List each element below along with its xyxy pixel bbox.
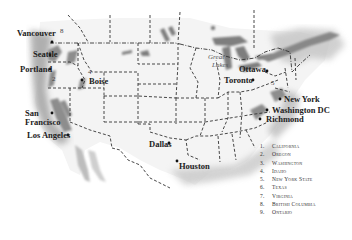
legend-number: 6.: [260, 183, 272, 191]
city-label-los-angeles: Los Angeles: [27, 131, 70, 140]
legend-number: 3.: [260, 159, 272, 167]
city-label-ottawa: Ottawa: [239, 65, 266, 74]
legend-label: Washington: [272, 159, 302, 167]
legend-number: 1.: [260, 142, 272, 150]
legend-label: California: [272, 142, 299, 150]
legend-label: British Columbia: [272, 200, 315, 208]
legend-item: 7.Virginia: [260, 192, 315, 200]
legend-number: 8.: [260, 200, 272, 208]
city-dot-san-francisco: [51, 112, 54, 115]
legend-item: 6.Texas: [260, 183, 315, 191]
city-dot-richmond: [259, 118, 262, 121]
legend-item: 8.British Columbia: [260, 200, 315, 208]
region-marker-4: 4: [88, 68, 92, 76]
legend-label: Idaho: [272, 167, 286, 175]
city-label-dallas: Dallas: [149, 140, 172, 149]
city-label-houston: Houston: [179, 162, 210, 171]
legend-item: 4.Idaho: [260, 167, 315, 175]
legend-item: 1.California: [260, 142, 315, 150]
legend-number: 9.: [260, 208, 272, 216]
legend-label: New York State: [272, 175, 312, 183]
legend-item: 2.Oregon: [260, 150, 315, 158]
legend-item: 5.New York State: [260, 175, 315, 183]
city-dot-houston: [176, 160, 179, 163]
city-label-seattle: Seattle: [33, 50, 58, 59]
legend-item: 9.Ontario: [260, 208, 315, 216]
legend: 1.California 2.Oregon 3.Washington 4.Ida…: [260, 142, 315, 217]
region-marker-8: 8: [60, 27, 64, 35]
legend-label: Oregon: [272, 150, 291, 158]
city-dot-washington-dc: [266, 109, 269, 112]
legend-number: 4.: [260, 167, 272, 175]
city-dot-boise: [81, 79, 84, 82]
city-dot-vancouver: [51, 41, 54, 44]
legend-number: 2.: [260, 150, 272, 158]
legend-label: Ontario: [272, 208, 292, 216]
city-label-new-york: New York: [284, 95, 320, 104]
city-label-portland: Portland: [20, 65, 52, 74]
legend-number: 5.: [260, 175, 272, 183]
legend-item: 3.Washington: [260, 159, 315, 167]
legend-label: Virginia: [272, 192, 293, 200]
region-marker-5: 5: [271, 79, 275, 87]
city-label-boise: Boise: [89, 77, 108, 86]
legend-label: Texas: [272, 183, 287, 191]
city-dot-ottawa: [266, 70, 269, 73]
city-label-richmond: Richmond: [266, 115, 304, 124]
legend-number: 7.: [260, 192, 272, 200]
region-marker-2: 2: [52, 75, 56, 83]
city-label-toronto: Toronto: [224, 76, 253, 85]
city-label-francisco: Francisco: [25, 118, 60, 127]
city-dot-new-york: [279, 98, 282, 101]
city-label-vancouver: Vancouver: [17, 29, 56, 38]
great-lakes-label-line2: Lakes: [212, 61, 228, 70]
